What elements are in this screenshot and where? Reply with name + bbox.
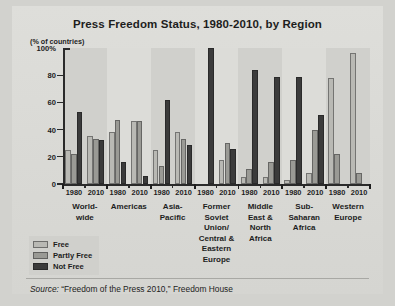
chart-title: Press Freedom Status, 1980-2010, by Regi… [12,18,383,30]
bar-free [87,136,93,184]
bar-free [284,180,290,184]
region-label-line: Saharan [288,213,320,224]
legend-item: Not Free [33,261,92,272]
bar-partly [312,130,318,184]
x-axis-region-label: MiddleEast &NorthAfrica [248,202,273,244]
bar-series-container [63,48,370,184]
x-axis-year-label: 2010 [88,188,104,197]
y-axis-tick-label: 0 [16,180,56,189]
bar-notfree [296,77,302,184]
bar-partly [246,169,252,184]
chart-legend: FreePartly FreeNot Free [29,236,99,275]
source-prefix: Source: [30,284,59,294]
bar-notfree [77,112,83,184]
bar-partly [356,173,362,184]
region-label-line: Africa [288,223,320,234]
y-axis-tick-label: 40 [16,125,56,134]
bar-partly [181,139,187,184]
bar-notfree [274,77,280,184]
x-axis-year-label: 1980 [241,188,257,197]
region-label-line: Asia- [160,202,186,213]
y-axis-tick-label: 100% [16,44,56,53]
bar-free [306,173,312,184]
bar-notfree [187,145,193,184]
bar-free [175,132,181,184]
bar-free [131,121,137,184]
bar-partly [159,166,165,184]
bar-partly [93,139,99,184]
region-label-line: Sub- [288,202,320,213]
region-label-line: Pacific [160,213,186,224]
x-axis-region-label: FormerSovietUnion/Central &EasternEurope [199,202,235,265]
x-axis-year-label: 2010 [263,188,279,197]
bar-free [109,132,115,184]
x-axis-region-label: Asia-Pacific [160,202,186,223]
x-axis-region-label: World-wide [72,202,97,223]
bar-notfree [121,162,127,184]
bar-free [153,150,159,184]
plot-area: 020406080100% [30,48,370,184]
bar-partly [290,160,296,184]
region-label-line: Eastern [199,244,235,255]
x-axis-year-label: 2010 [219,188,235,197]
region-label-line: Western [332,202,363,213]
bar-notfree [230,149,236,184]
region-label-line: Central & [199,234,235,245]
bar-notfree [208,48,214,184]
region-label-line: East & [248,213,273,224]
region-label-line: Europe [332,213,363,224]
legend-swatch-partly [33,252,48,259]
y-axis-tick-label: 20 [16,152,56,161]
x-axis-year-label: 2010 [132,188,148,197]
bar-notfree [165,100,171,184]
bar-free [241,177,247,184]
x-axis-region-labels: World-wideAmericasAsia-PacificFormerSovi… [63,202,385,254]
source-divider [26,278,369,279]
legend-swatch-free [33,241,48,248]
x-axis-year-label: 1980 [110,188,126,197]
region-label-line: wide [72,213,97,224]
region-label-line: Soviet [199,213,235,224]
bar-free [350,53,356,184]
x-axis-year-label: 2010 [351,188,367,197]
x-axis-year-label: 2010 [175,188,191,197]
bar-free [263,177,269,184]
legend-swatch-notfree [33,263,48,270]
region-label-line: World- [72,202,97,213]
region-label-line: Europe [199,255,235,266]
legend-item: Partly Free [33,250,92,261]
x-axis-year-label: 1980 [329,188,345,197]
legend-label: Not Free [53,262,84,271]
bar-free [328,78,334,184]
chart-page: Press Freedom Status, 1980-2010, by Regi… [0,0,395,306]
y-axis-tick-label: 60 [16,98,56,107]
bar-notfree [318,115,324,184]
source-note: Source: “Freedom of the Press 2010,” Fre… [30,284,233,294]
x-axis-year-label: 1980 [197,188,213,197]
bar-partly [225,143,231,184]
region-label-line: Americas [111,202,147,213]
x-axis-year-labels: 1980201019802010198020101980201019802010… [63,188,385,198]
x-axis-region-label: WesternEurope [332,202,363,223]
source-text: “Freedom of the Press 2010,” Freedom Hou… [59,284,233,294]
legend-label: Partly Free [53,251,92,260]
y-axis-tick-label: 80 [16,71,56,80]
bar-partly [137,121,143,184]
region-label-line: Africa [248,234,273,245]
bar-notfree [143,176,149,184]
bar-free [219,160,225,184]
chart-paper-panel: Press Freedom Status, 1980-2010, by Regi… [12,6,383,294]
region-label-line: Union/ [199,223,235,234]
x-axis-year-label: 2010 [307,188,323,197]
bar-partly [334,154,340,184]
region-label-line: Former [199,202,235,213]
bar-notfree [99,140,105,184]
bar-partly [71,154,77,184]
x-axis-year-label: 1980 [66,188,82,197]
bar-notfree [252,70,258,184]
bar-partly [268,162,274,184]
bar-free [65,150,71,184]
x-axis-year-label: 1980 [285,188,301,197]
x-axis-year-label: 1980 [153,188,169,197]
legend-label: Free [53,240,69,249]
